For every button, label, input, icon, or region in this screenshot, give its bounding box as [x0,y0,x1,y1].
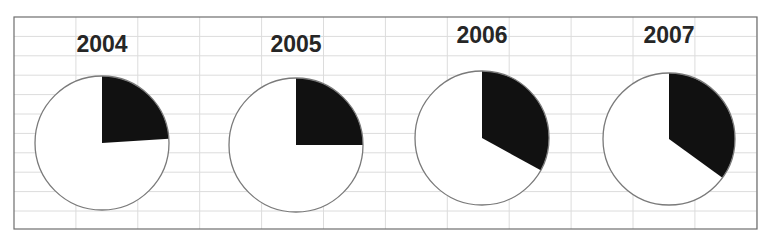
pie-title-2005: 2005 [270,31,321,57]
pie-chart-panel: 2004 2005 2006 2007 [0,0,767,231]
pie-title-2004: 2004 [76,31,127,57]
pie-title-2006: 2006 [456,22,507,48]
pie-title-2007: 2007 [643,22,694,48]
